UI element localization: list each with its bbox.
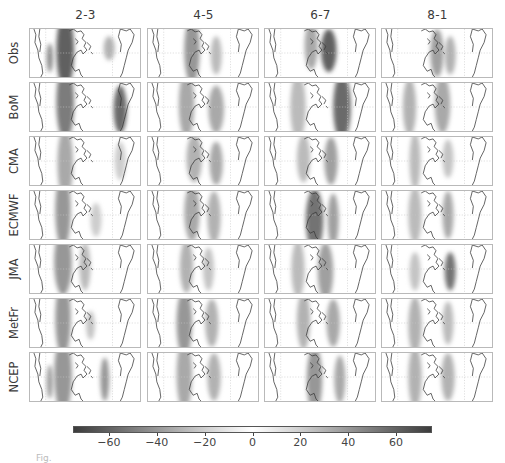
coastline bbox=[118, 299, 121, 322]
row-label-text: BoM bbox=[7, 95, 21, 120]
map-panel bbox=[147, 28, 259, 78]
coastline bbox=[353, 191, 356, 214]
column-header: 2-3 bbox=[29, 8, 142, 22]
coastline bbox=[39, 137, 41, 160]
anomaly-blob bbox=[209, 85, 224, 131]
colorbar-tick-label: 60 bbox=[381, 436, 411, 449]
coastline bbox=[274, 299, 276, 322]
colorbar-tick-label: −60 bbox=[94, 436, 124, 449]
coastline bbox=[157, 299, 159, 322]
row-label-text: Obs bbox=[7, 42, 21, 64]
colorbar-tick-label: −40 bbox=[142, 436, 172, 449]
coastline bbox=[274, 83, 276, 106]
coastline bbox=[39, 191, 41, 214]
coastline bbox=[236, 299, 239, 322]
map-panel bbox=[381, 82, 493, 132]
map-panel bbox=[264, 352, 376, 402]
row-label: ECMWF bbox=[4, 190, 24, 240]
coastline bbox=[39, 353, 41, 376]
anomaly-blob bbox=[210, 142, 223, 185]
column-header: 4-5 bbox=[147, 8, 260, 22]
map-panel bbox=[381, 298, 493, 348]
map-panel bbox=[29, 244, 141, 294]
anomaly-blob bbox=[445, 252, 456, 290]
row-label-text: CMA bbox=[7, 148, 21, 174]
coastline bbox=[353, 137, 356, 160]
coastline bbox=[470, 137, 473, 160]
map-panel bbox=[147, 82, 259, 132]
coastline bbox=[39, 83, 41, 106]
map-panel bbox=[264, 190, 376, 240]
coastline bbox=[470, 191, 473, 214]
map-panel bbox=[264, 82, 376, 132]
coastline bbox=[391, 83, 393, 106]
anomaly-blob bbox=[47, 43, 54, 72]
coastline bbox=[118, 245, 121, 268]
coastline bbox=[157, 83, 159, 106]
map-panel bbox=[381, 352, 493, 402]
coastline bbox=[470, 245, 473, 268]
figure-caption: Fig. bbox=[36, 453, 52, 463]
map-panel bbox=[264, 28, 376, 78]
map-panel bbox=[381, 28, 493, 78]
coastline bbox=[353, 245, 356, 268]
row-label: JMA bbox=[4, 244, 24, 294]
anomaly-blob bbox=[334, 355, 345, 401]
row-label: BoM bbox=[4, 82, 24, 132]
anomaly-blob bbox=[410, 252, 421, 290]
coastline bbox=[391, 191, 393, 214]
row-label-text: JMA bbox=[7, 258, 21, 279]
map-panel bbox=[381, 190, 493, 240]
coastline bbox=[118, 353, 121, 376]
anomaly-blob bbox=[91, 203, 102, 237]
colorbar bbox=[73, 426, 432, 433]
row-label-text: ECMWF bbox=[7, 193, 21, 236]
coastline bbox=[274, 191, 276, 214]
coastline bbox=[39, 299, 41, 322]
anomaly-blob bbox=[104, 36, 115, 60]
coastline bbox=[470, 83, 473, 106]
map-panel bbox=[147, 244, 259, 294]
anomaly-blob bbox=[328, 193, 339, 239]
coastline bbox=[236, 83, 239, 106]
row-label-text: NCEP bbox=[7, 362, 21, 393]
map-panel bbox=[147, 136, 259, 186]
coastline bbox=[118, 191, 121, 214]
coastline bbox=[274, 245, 276, 268]
coastline bbox=[391, 353, 393, 376]
coastline bbox=[39, 245, 41, 268]
map-panel bbox=[381, 244, 493, 294]
coastline bbox=[470, 353, 473, 376]
map-panel bbox=[264, 136, 376, 186]
coastline bbox=[157, 245, 159, 268]
map-panel bbox=[147, 298, 259, 348]
coastline bbox=[391, 245, 393, 268]
coastline bbox=[157, 353, 159, 376]
column-header: 8-1 bbox=[381, 8, 494, 22]
coastline bbox=[157, 191, 159, 214]
coastline bbox=[353, 299, 356, 322]
map-panel bbox=[264, 298, 376, 348]
anomaly-blob bbox=[114, 85, 127, 131]
coastline bbox=[236, 245, 239, 268]
map-panel bbox=[29, 82, 141, 132]
coastline bbox=[353, 353, 356, 376]
coastline bbox=[391, 299, 393, 322]
anomaly-blob bbox=[443, 139, 454, 177]
coastline bbox=[391, 137, 393, 160]
coastline bbox=[353, 29, 356, 52]
anomaly-blob bbox=[445, 36, 456, 74]
anomaly-blob bbox=[321, 29, 336, 72]
column-header: 6-7 bbox=[264, 8, 377, 22]
coastline bbox=[236, 29, 239, 52]
coastline bbox=[157, 137, 159, 160]
anomaly-blob bbox=[47, 365, 54, 399]
map-panel bbox=[29, 136, 141, 186]
map-panel bbox=[29, 190, 141, 240]
map-panel bbox=[381, 136, 493, 186]
row-label: Obs bbox=[4, 28, 24, 78]
colorbar-tick-label: 0 bbox=[238, 436, 268, 449]
map-panel bbox=[29, 298, 141, 348]
coastline bbox=[274, 29, 276, 52]
anomaly-blob bbox=[211, 36, 222, 74]
